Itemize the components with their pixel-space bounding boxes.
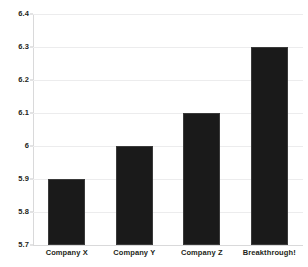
y-axis-tick-label: 5.8 <box>18 208 29 216</box>
x-axis-tick-label: Breakthrough! <box>236 249 304 257</box>
bar[interactable] <box>183 113 220 245</box>
y-axis-tick-label: 6.2 <box>18 76 29 84</box>
y-axis-tick-label: 6.1 <box>18 109 29 117</box>
plot-area <box>33 14 303 245</box>
x-axis-tick-label: Company X <box>33 249 101 257</box>
y-axis-tick-label: 6.4 <box>18 10 29 18</box>
y-axis-tick-label: 5.9 <box>18 175 29 183</box>
x-axis-tick-label: Company Z <box>168 249 236 257</box>
x-axis-tick-label: Company Y <box>101 249 169 257</box>
bar[interactable] <box>48 179 85 245</box>
bar-chart: 6.46.36.26.165.95.85.7 Company XCompany … <box>0 0 308 267</box>
y-axis-tick-label: 5.7 <box>18 241 29 249</box>
gridline <box>33 245 303 246</box>
y-axis-tick-label: 6.3 <box>18 43 29 51</box>
bar[interactable] <box>251 47 288 245</box>
y-axis-tick-label: 6 <box>25 142 29 150</box>
bar[interactable] <box>116 146 153 245</box>
